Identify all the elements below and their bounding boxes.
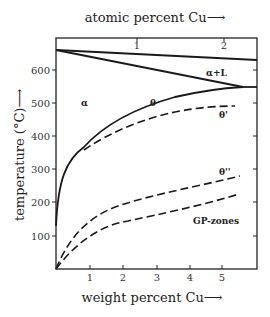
label-theta-prime: θ': [219, 110, 228, 120]
plot-frame: [56, 38, 257, 269]
label-alpha-liquid: α+L: [206, 68, 227, 78]
x-tick-5: 5: [219, 272, 225, 283]
y-tick-200: 200: [31, 197, 50, 208]
x-tick-4: 4: [187, 272, 193, 283]
top-tick-1: 1: [134, 40, 140, 51]
top-tick-2: 2: [221, 40, 227, 51]
x-tick-1: 1: [87, 272, 93, 283]
label-alpha: α: [81, 98, 88, 108]
y-axis-ticks: [52, 70, 257, 236]
y-tick-100: 100: [31, 231, 50, 242]
metastable-curves: [56, 106, 240, 269]
liquidus-line: [56, 50, 257, 60]
top-axis-title: atomic percent Cu⟶: [85, 10, 226, 25]
gp-zones-solvus: [56, 194, 239, 269]
label-theta: θ: [150, 98, 156, 108]
y-tick-400: 400: [31, 131, 50, 142]
x-tick-3: 3: [154, 272, 160, 283]
phase-curves: [56, 50, 257, 226]
x-axis-title: weight percent Cu⟶: [82, 290, 223, 305]
y-tick-600: 600: [31, 65, 50, 76]
y-axis-title: temperature (°C)⟶: [12, 89, 27, 221]
y-tick-300: 300: [31, 164, 50, 175]
x-tick-2: 2: [120, 272, 126, 283]
label-theta-double-prime: θ'': [219, 167, 231, 177]
y-tick-500: 500: [31, 98, 50, 109]
phase-diagram: atomic percent Cu⟶ 1 2 100 200 300 400 5…: [0, 0, 270, 317]
label-gp-zones: GP-zones: [193, 216, 239, 226]
